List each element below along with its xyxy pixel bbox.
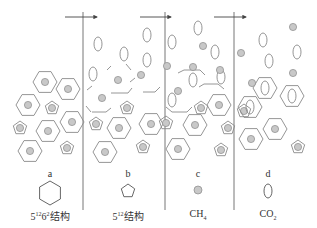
co2-molecule-icon [168,93,176,107]
co2-molecule-icon [261,81,269,95]
ch4-molecule-icon [237,49,244,56]
broken-cage-segment [155,87,160,92]
ch4-molecule-icon [199,42,206,49]
ch4-molecule-icon [163,62,170,69]
co2-molecule-icon [143,53,151,67]
co2-molecule-icon [168,35,176,49]
pentagon-legend-icon [121,184,134,197]
ch4-molecule-icon [68,118,75,125]
ch4-molecule-icon [174,87,181,94]
ch4-molecule-icon [115,124,122,131]
ch4-molecule-icon [191,121,198,128]
co2-molecule-icon [194,21,202,35]
ch4-molecule-icon [289,23,296,30]
co2-molecule-icon [259,33,267,47]
ch4-molecule-icon [98,94,105,101]
panel-label-a: a [48,168,52,179]
ch4-molecule-icon [101,148,108,155]
broken-cage-segment [107,66,111,70]
ch4-molecule-icon [162,119,169,126]
broken-cage-segment [200,70,205,75]
ch4-molecule-icon [123,104,130,111]
hydrate-diagram [0,0,317,228]
co2-molecule-icon [293,45,301,59]
legend-symbols [40,181,272,205]
ch4-molecule-icon [217,146,224,153]
co2-molecule-icon [189,73,197,87]
co2-molecule-icon [120,47,128,61]
ch4-molecule-icon [289,69,296,76]
ch4-molecule-icon [294,143,301,150]
ch4-molecule-icon [189,63,196,70]
ch4-molecule-icon [216,66,223,73]
broken-cage-segment [126,64,131,70]
hexagon-legend-icon [40,181,61,205]
ch4-molecule-icon [24,101,31,108]
ch4-molecule-icon [215,101,222,108]
ch4-molecule-icon [92,120,99,127]
ch4-legend-icon [194,186,202,194]
panel-caption-b: 512结构 [113,208,144,223]
co2-molecule-icon [288,89,296,103]
broken-cage-segment [86,106,91,112]
ch4-molecule-icon [248,79,255,86]
ch4-molecule-icon [26,147,33,154]
panel-caption-d: CO2 [260,208,277,221]
ch4-molecule-icon [197,104,204,111]
co2-molecule-icon [143,28,151,42]
broken-cage-segment [166,107,172,112]
broken-cage-segment [187,107,192,112]
co2-legend-icon [264,184,272,198]
molecules [13,21,304,162]
panel-caption-a: 51262结构 [31,208,70,223]
panel-caption-c: CH4 [190,208,207,221]
co2-molecule-icon [265,54,273,68]
broken-cage-segment [178,70,184,73]
ch4-molecule-icon [271,125,278,132]
ch4-molecule-icon [41,78,48,85]
panel-label-d: d [266,168,271,179]
ch4-molecule-icon [63,144,70,151]
ch4-molecule-icon [44,127,51,134]
broken-cage-segment [218,84,224,89]
ch4-molecule-icon [147,120,154,127]
panel-dividers [83,12,234,210]
ch4-molecule-icon [247,135,254,142]
ch4-molecule-icon [64,85,71,92]
co2-molecule-icon [94,37,102,51]
ch4-molecule-icon [16,124,23,131]
ch4-molecule-icon [139,143,146,150]
broken-cage-segment [106,108,111,112]
co2-molecule-icon [211,45,219,59]
panel-label-b: b [126,168,131,179]
ch4-molecule-icon [114,76,121,83]
panel-label-c: c [196,168,200,179]
co2-molecule-icon [89,67,97,81]
ch4-molecule-icon [137,71,144,78]
broken-cage-segment [199,84,204,87]
ch4-molecule-icon [224,124,231,131]
broken-cage-segment [130,78,135,82]
ch4-molecule-icon [48,104,55,111]
ch4-molecule-icon [174,145,181,152]
broken-cage-segment [87,86,92,90]
broken-cage-segment [128,88,132,93]
